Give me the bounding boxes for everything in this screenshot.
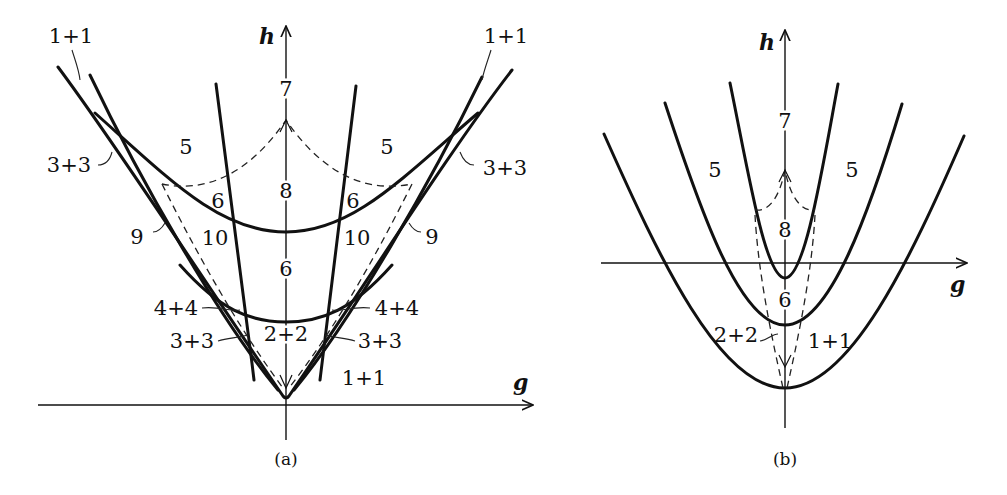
caption-a: (a): [274, 449, 297, 469]
label-1plus1: 1+1: [484, 24, 528, 48]
label-6: 6: [211, 189, 224, 213]
label-4plus4: 4+4: [154, 296, 198, 320]
label-3plus3: 3+3: [358, 329, 402, 353]
label-5: 5: [179, 135, 192, 159]
label-1plus1: 1+1: [342, 366, 386, 390]
label-10: 10: [344, 226, 371, 250]
g-axis-label: g: [950, 271, 965, 297]
label-3plus3: 3+3: [47, 153, 91, 177]
h-axis-label: h: [759, 29, 775, 55]
label-1plus1: 1+1: [49, 24, 93, 48]
label-5: 5: [708, 158, 721, 182]
label-5: 5: [380, 135, 393, 159]
label-9: 9: [425, 225, 438, 249]
caption-b: (b): [773, 449, 797, 469]
label-4plus4: 4+4: [375, 296, 419, 320]
label-8: 8: [778, 218, 791, 242]
figure-canvas: 1+1 1+1 3+3 3+3 5 5 7 8 6 6 9 9 10 10 6 …: [0, 0, 1007, 495]
label-6: 6: [346, 189, 359, 213]
region-labels-b: 5 5 7 8 6 2+2 1+1: [708, 109, 858, 353]
label-2plus2: 2+2: [714, 323, 758, 347]
label-3plus3: 3+3: [170, 329, 214, 353]
label-6: 6: [279, 257, 292, 281]
label-8: 8: [279, 179, 292, 203]
h-axis-label: h: [259, 23, 275, 49]
panel-a: 1+1 1+1 3+3 3+3 5 5 7 8 6 6 9 9 10 10 6 …: [38, 23, 533, 469]
label-7: 7: [778, 109, 791, 133]
label-3plus3: 3+3: [483, 156, 527, 180]
region-labels-a: 1+1 1+1 3+3 3+3 5 5 7 8 6 6 9 9 10 10 6 …: [47, 24, 528, 390]
label-2plus2: 2+2: [264, 322, 308, 346]
label-7: 7: [279, 77, 292, 101]
label-6: 6: [778, 288, 791, 312]
g-axis-label: g: [513, 369, 528, 395]
label-5: 5: [845, 158, 858, 182]
dashed-a-top: [162, 120, 412, 186]
label-10: 10: [202, 226, 229, 250]
label-9: 9: [130, 225, 143, 249]
label-1plus1: 1+1: [808, 329, 852, 353]
panel-b: 5 5 7 8 6 2+2 1+1 h g (b): [601, 29, 967, 469]
